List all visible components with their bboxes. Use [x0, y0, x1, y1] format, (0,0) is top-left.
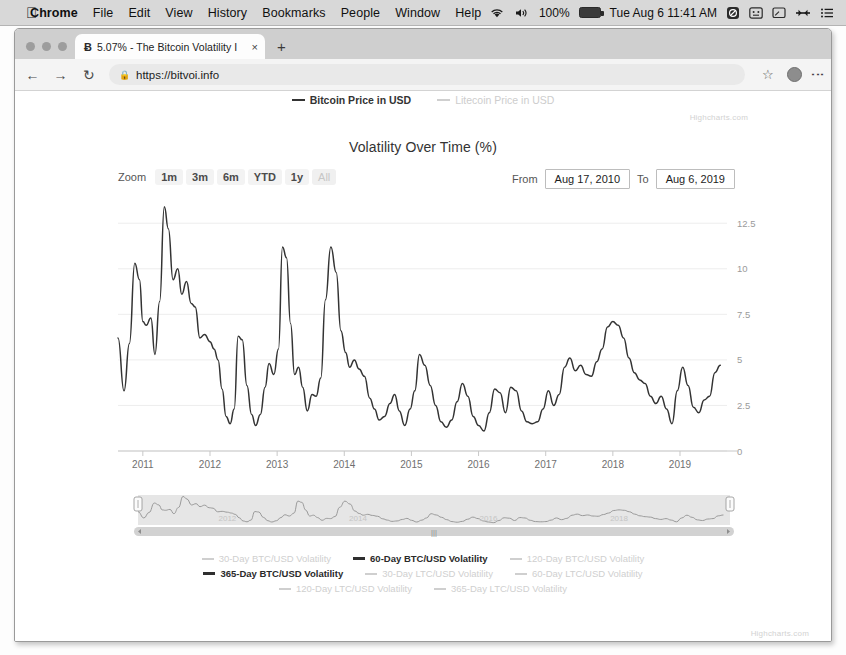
screen-mirroring-icon[interactable]	[772, 6, 786, 20]
menubar-status-items: 100% Tue Aug 6 11:41 AM	[489, 6, 838, 20]
address-bar[interactable]: 🔒 https://bitvoi.info	[109, 64, 745, 85]
from-date-input[interactable]: Aug 17, 2010	[545, 169, 630, 189]
svg-text:|||: |||	[431, 528, 437, 537]
url-text: https://bitvoi.info	[136, 69, 219, 81]
legend-label: 365-Day LTC/USD Volatility	[451, 583, 567, 594]
legend-item-365d-btc[interactable]: 365-Day BTC/USD Volatility	[203, 568, 343, 579]
chart-plot-area[interactable]: 02.557.51012.520112012201320142015201620…	[15, 201, 831, 481]
menu-item-history[interactable]: History	[208, 6, 248, 20]
menu-item-help[interactable]: Help	[455, 6, 481, 20]
forward-button[interactable]: →	[53, 67, 68, 83]
legend-dash-icon	[365, 573, 377, 575]
zoom-button-1m[interactable]: 1m	[155, 169, 183, 185]
from-label: From	[512, 173, 538, 185]
new-tab-button[interactable]: +	[265, 38, 296, 59]
control-center-icon[interactable]	[749, 6, 763, 20]
svg-text:2015: 2015	[400, 459, 423, 470]
svg-text:2016: 2016	[467, 459, 490, 470]
profile-avatar[interactable]	[787, 67, 802, 82]
navigator-mini-chart[interactable]: 2012201420162018|||	[15, 491, 831, 541]
volume-icon[interactable]	[514, 7, 530, 19]
legend-dash-icon	[202, 558, 214, 560]
date-range-inputs: From Aug 17, 2010 To Aug 6, 2019	[512, 169, 735, 189]
legend-item-litecoin-price[interactable]: Litecoin Price in USD	[437, 94, 554, 106]
legend-label: 30-Day LTC/USD Volatility	[382, 568, 493, 579]
legend-dash-icon	[510, 558, 522, 560]
bitcoin-favicon-icon: Ƀ	[84, 41, 92, 53]
highcharts-watermark-top[interactable]: Highcharts.com	[690, 113, 748, 122]
legend-dash-icon	[203, 572, 215, 574]
legend-label: 60-Day LTC/USD Volatility	[532, 568, 643, 579]
legend-item-60d-btc[interactable]: 60-Day BTC/USD Volatility	[353, 553, 488, 564]
notification-center-icon[interactable]	[820, 7, 834, 19]
legend-label: 60-Day BTC/USD Volatility	[370, 553, 488, 564]
legend-item-30d-btc[interactable]: 30-Day BTC/USD Volatility	[202, 553, 331, 564]
legend-label: 120-Day BTC/USD Volatility	[527, 553, 645, 564]
svg-text:2013: 2013	[266, 459, 289, 470]
legend-item-365d-ltc[interactable]: 365-Day LTC/USD Volatility	[434, 583, 567, 594]
zoom-button-3m[interactable]: 3m	[186, 169, 214, 185]
legend-item-30d-ltc[interactable]: 30-Day LTC/USD Volatility	[365, 568, 493, 579]
browser-toolbar: ← → ↻ 🔒 https://bitvoi.info ☆ ⋮	[15, 59, 831, 91]
close-window-button[interactable]	[26, 42, 35, 51]
svg-text:2014: 2014	[333, 459, 356, 470]
legend-dash-icon	[292, 99, 305, 101]
legend-label: Bitcoin Price in USD	[310, 94, 412, 106]
menu-item-window[interactable]: Window	[395, 6, 440, 20]
wifi-icon[interactable]	[489, 7, 505, 19]
svg-text:2018: 2018	[610, 514, 628, 523]
legend-label: Litecoin Price in USD	[455, 94, 554, 106]
back-button[interactable]: ←	[25, 67, 40, 83]
tab-title: 5.07% - The Bitcoin Volatility I	[97, 41, 244, 53]
macos-menubar:  Chrome File Edit View History Bookmark…	[0, 0, 846, 26]
minimize-window-button[interactable]	[42, 42, 51, 51]
menu-item-view[interactable]: View	[165, 6, 192, 20]
volatility-line-chart[interactable]: 02.557.51012.520112012201320142015201620…	[15, 201, 831, 481]
display-icon[interactable]	[795, 7, 811, 19]
svg-text:5: 5	[737, 354, 742, 365]
svg-text:2014: 2014	[349, 514, 367, 523]
screen:  Chrome File Edit View History Bookmark…	[0, 0, 846, 655]
chrome-menu-icon[interactable]: ⋮	[815, 68, 821, 81]
legend-dash-icon	[515, 573, 527, 575]
spotlight-icon[interactable]	[726, 6, 740, 20]
zoom-label: Zoom	[118, 171, 146, 183]
menu-item-bookmarks[interactable]: Bookmarks	[262, 6, 325, 20]
menu-item-file[interactable]: File	[93, 6, 114, 20]
legend-dash-icon	[353, 557, 365, 559]
legend-item-120d-ltc[interactable]: 120-Day LTC/USD Volatility	[279, 583, 412, 594]
svg-text:2017: 2017	[535, 459, 558, 470]
zoom-button-ytd[interactable]: YTD	[248, 169, 282, 185]
battery-icon[interactable]	[579, 7, 601, 18]
datetime-label[interactable]: Tue Aug 6 11:41 AM	[610, 6, 717, 20]
legend-item-60d-ltc[interactable]: 60-Day LTC/USD Volatility	[515, 568, 643, 579]
legend-label: 30-Day BTC/USD Volatility	[219, 553, 331, 564]
menu-item-people[interactable]: People	[341, 6, 381, 20]
svg-text:12.5: 12.5	[737, 218, 756, 229]
legend-item-bitcoin-price[interactable]: Bitcoin Price in USD	[292, 94, 412, 106]
legend-dash-icon	[279, 588, 291, 590]
bookmark-star-icon[interactable]: ☆	[762, 67, 774, 82]
tab-strip: Ƀ 5.07% - The Bitcoin Volatility I × +	[15, 29, 831, 59]
menu-item-edit[interactable]: Edit	[128, 6, 150, 20]
zoom-button-all[interactable]: All	[312, 169, 336, 185]
zoom-button-1y[interactable]: 1y	[285, 169, 309, 185]
svg-text:2.5: 2.5	[737, 400, 750, 411]
svg-text:2016: 2016	[480, 514, 498, 523]
zoom-button-6m[interactable]: 6m	[217, 169, 245, 185]
window-controls	[23, 42, 75, 59]
legend-dash-icon	[437, 99, 450, 101]
reload-button[interactable]: ↻	[81, 67, 96, 83]
range-selector: Zoom 1m 3m 6m YTD 1y All From Aug 17, 20…	[15, 169, 831, 191]
legend-item-120d-btc[interactable]: 120-Day BTC/USD Volatility	[510, 553, 645, 564]
to-date-input[interactable]: Aug 6, 2019	[656, 169, 735, 189]
maximize-window-button[interactable]	[58, 42, 67, 51]
chart-navigator[interactable]: 2012201420162018|||	[15, 491, 831, 541]
close-tab-icon[interactable]: ×	[249, 41, 258, 53]
browser-tab[interactable]: Ƀ 5.07% - The Bitcoin Volatility I ×	[75, 34, 265, 59]
svg-text:7.5: 7.5	[737, 309, 750, 320]
highcharts-watermark-bottom[interactable]: Highcharts.com	[751, 629, 809, 638]
chrome-window: Ƀ 5.07% - The Bitcoin Volatility I × + ←…	[14, 28, 832, 642]
apple-logo-icon[interactable]: 	[26, 4, 40, 21]
battery-percent-label: 100%	[539, 6, 570, 20]
